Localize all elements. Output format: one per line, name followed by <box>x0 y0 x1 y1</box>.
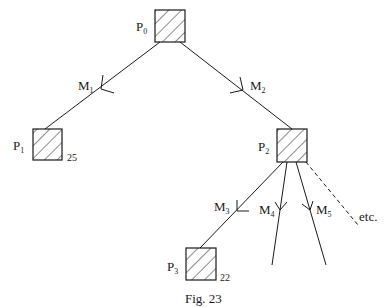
figure-caption: Fig. 23 <box>185 291 222 306</box>
continuation-dashed-line <box>306 162 358 225</box>
continuation-label: etc. <box>359 209 377 224</box>
arrow-m3-icon <box>237 200 249 211</box>
node-p0-label: P0 <box>136 19 147 36</box>
node-p2-box <box>277 129 307 162</box>
edge-m2-label: M2 <box>250 78 266 95</box>
node-p1-box <box>33 129 62 160</box>
node-p2-label: P2 <box>258 139 269 156</box>
node-p1-value: 25 <box>67 152 77 163</box>
node-p3-value: 22 <box>220 272 230 283</box>
node-p3-label: P3 <box>167 259 178 276</box>
edge-m1-label: M1 <box>78 78 94 95</box>
edge-m3-label: M3 <box>214 199 230 216</box>
edge-m5-label: M5 <box>316 202 332 219</box>
node-p3-box <box>186 248 216 280</box>
edge-m1-line <box>45 42 160 129</box>
edge-m2-line <box>180 42 292 129</box>
edge-m4-label: M4 <box>259 202 275 219</box>
node-p0-box <box>155 10 185 42</box>
node-p1-label: P1 <box>13 138 24 155</box>
game-tree-diagram: P0 P1 P2 P3 25 22 M1 M2 M3 M4 M5 etc. Fi… <box>0 0 387 307</box>
arrow-m2-icon <box>230 77 243 93</box>
